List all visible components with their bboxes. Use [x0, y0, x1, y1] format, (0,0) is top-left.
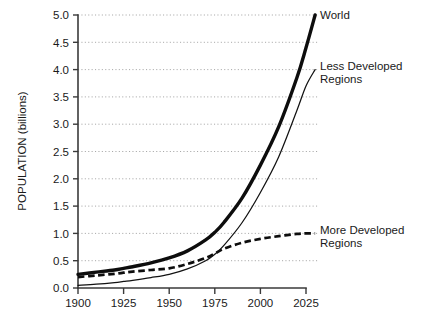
- x-tick-labels: 1900 1925 1950 1975 2000 2025: [65, 297, 319, 309]
- chart-canvas: 5.0 4.5 4.0 3.5 3.0 2.5 2.0 1.5 1.0 0.5 …: [0, 0, 431, 324]
- label-less-developed-line1: Less Developed: [320, 60, 402, 72]
- x-tick-marks: [78, 288, 306, 294]
- y-tick-label-3-0: 3.0: [53, 118, 69, 130]
- y-tick-label-2-5: 2.5: [53, 146, 69, 158]
- y-tick-label-4-0: 4.0: [53, 64, 69, 76]
- series-less-developed-regions: [78, 70, 315, 286]
- y-tick-label-0-0: 0.0: [53, 282, 69, 294]
- series-annotations: World Less Developed Regions More Develo…: [320, 9, 404, 249]
- data-series: [78, 15, 315, 285]
- x-tick-label-2025: 2025: [293, 297, 319, 309]
- y-tick-label-1-5: 1.5: [53, 200, 69, 212]
- label-less-developed-line2: Regions: [320, 73, 362, 85]
- label-more-developed-line1: More Developed: [320, 224, 404, 236]
- y-tick-label-1-0: 1.0: [53, 228, 69, 240]
- y-tick-label-0-5: 0.5: [53, 255, 69, 267]
- y-tick-label-4-5: 4.5: [53, 37, 69, 49]
- y-tick-label-3-5: 3.5: [53, 91, 69, 103]
- y-tick-label-5-0: 5.0: [53, 9, 69, 21]
- x-tick-label-2000: 2000: [248, 297, 274, 309]
- x-tick-label-1950: 1950: [156, 297, 182, 309]
- population-growth-chart: 5.0 4.5 4.0 3.5 3.0 2.5 2.0 1.5 1.0 0.5 …: [0, 0, 431, 324]
- y-tick-label-2-0: 2.0: [53, 173, 69, 185]
- y-axis-title: POPULATION (billions): [16, 91, 28, 210]
- gridlines: [78, 15, 318, 261]
- x-tick-label-1925: 1925: [111, 297, 137, 309]
- label-more-developed-line2: Regions: [320, 237, 362, 249]
- x-tick-label-1975: 1975: [202, 297, 228, 309]
- x-tick-label-1900: 1900: [65, 297, 91, 309]
- label-world: World: [320, 9, 350, 21]
- y-tick-labels: 5.0 4.5 4.0 3.5 3.0 2.5 2.0 1.5 1.0 0.5 …: [53, 9, 69, 294]
